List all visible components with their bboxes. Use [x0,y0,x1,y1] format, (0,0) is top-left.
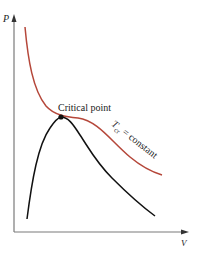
y-axis-label: P [2,13,9,24]
isotherm-label: Tcr = constant [108,118,160,163]
isotherm-label-rest: = constant [118,125,160,161]
critical-point [58,114,63,119]
critical-point-label: Critical point [58,102,111,113]
y-axis-arrow-icon [12,14,17,22]
x-axis-arrow-icon [181,230,189,235]
svg-text:Tcr = constant: Tcr = constant [108,118,160,163]
pv-diagram: P V Critical point Tcr = constant [0,0,201,254]
axes [12,14,190,235]
x-axis-label: V [181,238,188,248]
critical-isotherm [25,27,162,175]
